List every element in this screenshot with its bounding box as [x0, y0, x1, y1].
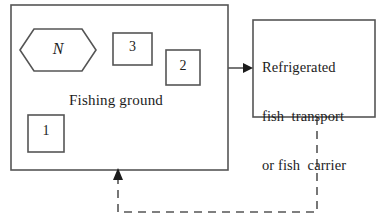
refrigerated-transport-label: Refrigerated fish transport or fish carr… — [262, 27, 346, 206]
vessel-2-number: 2 — [166, 58, 200, 74]
transport-label-line-2: fish transport — [262, 108, 346, 124]
fishing-ground-label: Fishing ground — [69, 92, 163, 109]
vessel-1-number: 1 — [0, 123, 92, 139]
diagram-canvas: N 3 2 1 Fishing ground Refrigerated fish… — [0, 0, 382, 223]
transport-label-line-3: or fish carrier — [262, 157, 346, 173]
north-marker-letter: N — [20, 40, 96, 58]
transport-label-line-1: Refrigerated — [262, 59, 346, 75]
vessel-3-number: 3 — [113, 39, 152, 55]
catch-delivery-arrowhead — [243, 63, 253, 73]
